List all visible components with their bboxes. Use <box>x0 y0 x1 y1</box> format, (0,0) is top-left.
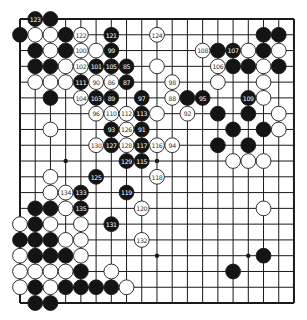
white-stone: 116 <box>150 138 165 153</box>
black-stone <box>256 43 271 58</box>
white-stone <box>73 233 88 248</box>
white-stone: 92 <box>180 106 195 121</box>
move-number-label: 86 <box>108 79 116 86</box>
black-stone <box>28 201 43 216</box>
white-stone <box>43 169 58 184</box>
stone-icon <box>43 233 58 248</box>
stone-icon <box>73 280 88 295</box>
stone-icon <box>43 59 58 74</box>
black-stone <box>58 280 73 295</box>
black-stone <box>256 122 271 137</box>
white-stone <box>150 106 165 121</box>
white-stone: 106 <box>210 59 225 74</box>
black-stone <box>226 122 241 137</box>
move-number-label: 102 <box>75 63 86 70</box>
stone-icon <box>241 59 256 74</box>
stone-icon <box>43 217 58 232</box>
stone-icon <box>271 106 286 121</box>
black-stone <box>43 201 58 216</box>
white-stone: 86 <box>104 75 119 90</box>
black-stone <box>28 233 43 248</box>
stone-icon <box>210 43 225 58</box>
black-stone: 89 <box>104 91 119 106</box>
black-stone: 135 <box>73 201 88 216</box>
move-number-label: 113 <box>136 110 147 117</box>
move-number-label: 128 <box>121 142 132 149</box>
move-number-label: 119 <box>121 189 132 196</box>
stone-icon <box>28 296 43 311</box>
stone-icon <box>58 248 73 263</box>
black-stone: 111 <box>73 75 88 90</box>
black-stone: 129 <box>119 154 134 169</box>
stone-icon <box>43 12 58 27</box>
stone-icon <box>28 43 43 58</box>
stone-icon <box>43 75 58 90</box>
star-point <box>63 159 67 163</box>
stone-icon <box>43 27 58 42</box>
black-stone <box>13 233 28 248</box>
white-stone: 100 <box>73 43 88 58</box>
white-stone: 126 <box>119 122 134 137</box>
white-stone <box>13 264 28 279</box>
stone-icon <box>256 248 271 263</box>
move-number-label: 96 <box>92 110 100 117</box>
black-stone: 123 <box>28 12 43 27</box>
stone-icon <box>73 233 88 248</box>
white-stone <box>28 264 43 279</box>
stone-icon <box>43 296 58 311</box>
stone-icon <box>43 201 58 216</box>
black-stone <box>43 296 58 311</box>
stone-icon <box>58 280 73 295</box>
black-stone <box>73 280 88 295</box>
stone-icon <box>58 59 73 74</box>
black-stone <box>210 43 225 58</box>
white-stone <box>58 233 73 248</box>
black-stone <box>43 12 58 27</box>
move-number-label: 89 <box>108 95 116 102</box>
stone-icon <box>210 75 225 90</box>
black-stone <box>73 264 88 279</box>
white-stone <box>73 217 88 232</box>
black-stone: 131 <box>104 217 119 232</box>
move-number-label: 135 <box>75 205 86 212</box>
black-stone <box>241 106 256 121</box>
white-stone <box>226 154 241 169</box>
black-stone <box>13 27 28 42</box>
black-stone: 133 <box>73 185 88 200</box>
black-stone <box>28 217 43 232</box>
black-stone: 109 <box>241 91 256 106</box>
white-stone <box>89 43 104 58</box>
move-number-label: 106 <box>212 63 223 70</box>
black-stone <box>28 43 43 58</box>
move-number-label: 95 <box>199 95 207 102</box>
black-stone: 115 <box>134 154 149 169</box>
black-stone: 97 <box>134 91 149 106</box>
white-stone <box>150 59 165 74</box>
white-stone <box>58 59 73 74</box>
white-stone <box>104 264 119 279</box>
white-stone: 112 <box>119 106 134 121</box>
white-stone <box>271 122 286 137</box>
black-stone <box>256 27 271 42</box>
black-stone <box>43 59 58 74</box>
star-point <box>155 159 159 163</box>
stone-icon <box>28 248 43 263</box>
white-stone <box>43 75 58 90</box>
black-stone <box>89 280 104 295</box>
white-stone <box>58 75 73 90</box>
stone-icon <box>256 91 271 106</box>
black-stone: 103 <box>89 91 104 106</box>
stone-icon <box>150 106 165 121</box>
stone-icon <box>104 264 119 279</box>
stone-icon <box>43 185 58 200</box>
move-number-label: 109 <box>243 95 254 102</box>
move-number-label: 125 <box>91 174 102 181</box>
stone-icon <box>226 59 241 74</box>
black-stone <box>58 27 73 42</box>
white-stone: 132 <box>134 233 149 248</box>
move-number-label: 85 <box>123 63 131 70</box>
black-stone <box>43 233 58 248</box>
stone-icon <box>271 27 286 42</box>
white-stone: 88 <box>165 91 180 106</box>
move-number-label: 133 <box>75 189 86 196</box>
